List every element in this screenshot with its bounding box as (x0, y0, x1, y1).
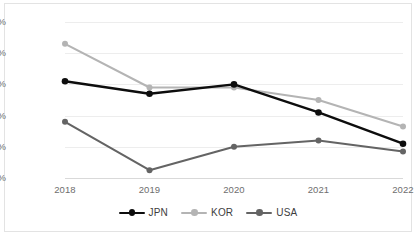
x-tick-label: 2018 (35, 184, 95, 195)
data-point-jpn-2020 (231, 81, 238, 88)
data-point-jpn-2018 (62, 78, 69, 85)
legend-swatch-jpn-icon (119, 208, 145, 217)
plot-area (65, 22, 403, 178)
y-tick-label: 10.0% (0, 47, 6, 58)
legend-marker-dot-icon (191, 209, 198, 216)
x-tick-label: 2021 (289, 184, 349, 195)
data-point-jpn-2021 (315, 109, 322, 116)
x-axis-line (65, 178, 403, 179)
data-point-kor-2019 (147, 85, 153, 91)
legend-label: USA (276, 207, 297, 218)
legend-swatch-usa-icon (246, 208, 272, 217)
chart-frame: 11.0%10.0%9.0%8.0%7.0%6.0% 2018201920202… (4, 3, 412, 232)
data-point-kor-2018 (62, 41, 68, 47)
series-line-jpn (65, 81, 403, 143)
data-point-usa-2021 (316, 138, 322, 144)
series-lines (65, 22, 403, 178)
legend-marker-dot-icon (129, 209, 136, 216)
data-point-jpn-2019 (146, 90, 153, 97)
data-point-usa-2020 (231, 144, 237, 150)
data-point-kor-2022 (400, 124, 406, 130)
y-tick-label: 6.0% (0, 172, 6, 183)
legend-item-usa[interactable]: USA (246, 207, 297, 218)
y-tick-label: 9.0% (0, 78, 6, 89)
data-point-usa-2022 (400, 148, 406, 154)
y-tick-label: 7.0% (0, 141, 6, 152)
x-tick-label: 2020 (204, 184, 264, 195)
legend-item-kor[interactable]: KOR (181, 207, 233, 218)
legend-label: KOR (211, 207, 233, 218)
legend-marker-dot-icon (256, 209, 263, 216)
y-tick-label: 8.0% (0, 110, 6, 121)
legend-item-jpn[interactable]: JPN (119, 207, 169, 218)
data-point-kor-2021 (316, 97, 322, 103)
data-point-jpn-2022 (400, 140, 407, 147)
legend-label: JPN (149, 207, 169, 218)
data-point-usa-2018 (62, 119, 68, 125)
x-tick-label: 2022 (373, 184, 419, 195)
legend-swatch-kor-icon (181, 208, 207, 217)
y-tick-label: 11.0% (0, 16, 6, 27)
chart-legend: JPNKORUSA (5, 207, 411, 218)
x-tick-label: 2019 (120, 184, 180, 195)
data-point-usa-2019 (147, 167, 153, 173)
